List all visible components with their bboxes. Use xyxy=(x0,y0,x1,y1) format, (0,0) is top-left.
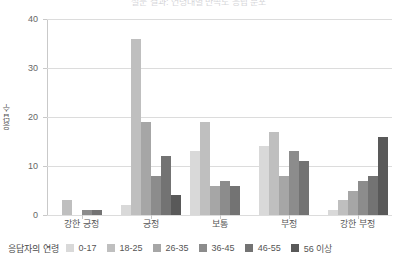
y-axis-tick xyxy=(43,215,47,216)
bar-group xyxy=(47,19,116,215)
x-axis-category-label: 긍정 xyxy=(116,217,185,230)
legend-swatch-icon xyxy=(107,244,115,252)
y-axis-tick-label: 40 xyxy=(0,15,38,24)
legend-item[interactable]: 18-25 xyxy=(107,243,143,253)
bar xyxy=(299,161,309,215)
legend-item-label: 46-55 xyxy=(258,243,281,253)
bar xyxy=(338,200,348,215)
bar xyxy=(92,210,102,215)
legend-swatch-icon xyxy=(245,244,253,252)
y-axis-tick-label: 10 xyxy=(0,162,38,171)
bar xyxy=(358,181,368,215)
bar xyxy=(171,195,181,215)
bar xyxy=(279,176,289,215)
legend-item-label: 56 이상 xyxy=(304,242,333,255)
bar xyxy=(289,151,299,215)
legend-swatch-icon xyxy=(291,244,299,252)
legend-item[interactable]: 0-17 xyxy=(66,243,97,253)
bar xyxy=(368,176,378,215)
x-axis-labels: 강한 긍정긍정보통부정강한 부정 xyxy=(47,217,392,231)
y-axis-tick-label: 0 xyxy=(0,211,38,220)
bar xyxy=(151,176,161,215)
bar-group xyxy=(185,19,254,215)
x-axis-category-label: 강한 긍정 xyxy=(47,217,116,230)
legend-swatch-icon xyxy=(199,244,207,252)
bar xyxy=(269,132,279,215)
legend-swatch-icon xyxy=(153,244,161,252)
x-axis-category-label: 부정 xyxy=(254,217,323,230)
bar xyxy=(121,205,131,215)
bar xyxy=(141,122,151,215)
page-title: 설문 결과: 연령대별 만족도 응답 분포 xyxy=(131,0,266,8)
legend-item[interactable]: 46-55 xyxy=(245,243,281,253)
bar-group xyxy=(254,19,323,215)
bar xyxy=(82,210,92,215)
legend-title: 응답자의 연령 xyxy=(8,242,59,255)
bar xyxy=(161,156,171,215)
bar xyxy=(62,200,72,215)
bar xyxy=(328,210,338,215)
bar xyxy=(220,181,230,215)
chart-legend: 응답자의 연령 0-1718-2526-3536-4546-5556 이상 xyxy=(0,239,398,257)
bar xyxy=(230,186,240,215)
bar xyxy=(378,137,388,215)
legend-item-label: 0-17 xyxy=(79,243,97,253)
y-axis-tick-label: 30 xyxy=(0,64,38,73)
bar-chart: 응답 수 010203040 강한 긍정긍정보통부정강한 부정 xyxy=(0,9,398,231)
y-axis-tick-label: 20 xyxy=(0,113,38,122)
chart-title-strip: 설문 결과: 연령대별 만족도 응답 분포 xyxy=(0,0,398,9)
bar xyxy=(131,39,141,215)
bar xyxy=(259,146,269,215)
legend-item[interactable]: 36-45 xyxy=(199,243,235,253)
legend-item[interactable]: 26-35 xyxy=(153,243,189,253)
bar xyxy=(210,186,220,215)
bar xyxy=(348,191,358,216)
bar-group xyxy=(116,19,185,215)
legend-item-label: 18-25 xyxy=(120,243,143,253)
legend-swatch-icon xyxy=(66,244,74,252)
plot-area: 010203040 xyxy=(47,19,392,215)
legend-item-label: 26-35 xyxy=(166,243,189,253)
legend-item[interactable]: 56 이상 xyxy=(291,242,333,255)
x-axis-category-label: 강한 부정 xyxy=(323,217,392,230)
bar-group xyxy=(323,19,392,215)
legend-item-label: 36-45 xyxy=(212,243,235,253)
bar xyxy=(190,151,200,215)
x-axis-category-label: 보통 xyxy=(185,217,254,230)
bar xyxy=(200,122,210,215)
